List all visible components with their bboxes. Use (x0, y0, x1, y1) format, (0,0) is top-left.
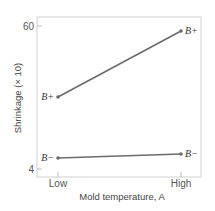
label-b-plus-high: B+ (185, 25, 198, 36)
line-b-plus (58, 31, 181, 97)
y-tick-label-min: 4 (28, 164, 34, 175)
y-axis-title: Shrinkage (× 10) (12, 63, 23, 134)
label-b-minus-low: B− (41, 152, 54, 163)
point-b-plus-high (179, 29, 183, 33)
series-b-plus: B+ B+ (41, 25, 198, 102)
x-axis-title: Mold temperature, A (79, 191, 165, 202)
y-tick-label-max: 60 (23, 21, 35, 32)
label-b-minus-high: B− (185, 148, 198, 159)
label-b-plus-low: B+ (41, 91, 54, 102)
plot-frame (37, 17, 201, 177)
x-tick-label-low: Low (49, 178, 68, 189)
point-b-minus-high (179, 152, 183, 156)
x-tick-label-high: High (171, 178, 192, 189)
point-b-plus-low (56, 95, 60, 99)
series-b-minus: B− B− (41, 148, 198, 163)
point-b-minus-low (56, 156, 60, 160)
line-b-minus (58, 154, 181, 158)
interaction-plot: 60 4 Shrinkage (× 10) Low High Mold temp… (0, 0, 215, 211)
